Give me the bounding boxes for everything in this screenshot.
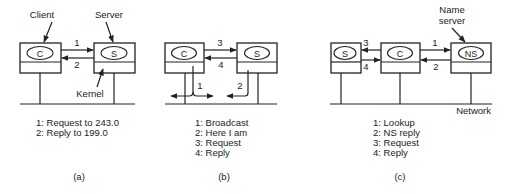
server-process-label: S: [254, 49, 260, 59]
server-pointer-icon: [106, 22, 113, 42]
client-process-label: C: [37, 49, 44, 59]
client-machine: C: [165, 43, 204, 104]
panel-a: C S 1 2 Client Server Kernel 1: Request …: [20, 9, 135, 182]
panel-caption: (c): [394, 171, 405, 182]
arrow-4-label: 4: [218, 59, 223, 70]
legend-line-2: 2: Reply to 199.0: [36, 127, 108, 138]
diagram-canvas: C S 1 2 Client Server Kernel 1: Request …: [0, 0, 512, 194]
client-machine: C: [381, 43, 420, 104]
server-machine: S: [331, 43, 361, 104]
arrow-1-label: 1: [74, 37, 79, 48]
name-server-process-label: NS: [465, 49, 478, 59]
server-process-label: S: [342, 49, 348, 59]
arrow-2-label: 2: [74, 59, 79, 70]
legend-line-4: 4: Reply: [373, 147, 408, 158]
broadcast-right-arrow-icon: [193, 92, 213, 96]
panel-caption: (a): [73, 171, 85, 182]
server-process-label: S: [111, 49, 117, 59]
panel-c: S C NS 1 2 3 4 Name server: [330, 4, 492, 182]
name-server-annotation-line-1: Name: [439, 4, 464, 15]
server-annotation: Server: [95, 9, 123, 20]
arrow-2-label: 2: [433, 61, 438, 72]
arrow-1-label: 1: [432, 37, 437, 48]
client-pointer-icon: [44, 22, 52, 42]
arrow-2-label: 2: [237, 80, 242, 91]
panel-caption: (b): [218, 171, 230, 182]
arrow-3-label: 3: [363, 37, 368, 48]
arrow-3-label: 3: [217, 37, 222, 48]
name-server-pointer-icon: [452, 28, 465, 42]
server-machine: S: [237, 43, 277, 104]
panel-b: C S 3 4 1 2 1: Broadcast 2: Here I am 3:…: [165, 37, 277, 182]
client-process-label: C: [397, 49, 404, 59]
name-server-annotation-line-2: server: [439, 15, 465, 26]
client-machine: C: [20, 43, 61, 104]
name-server-machine: NS: [451, 43, 491, 104]
legend-line-4: 4: Reply: [195, 147, 230, 158]
client-process-label: C: [181, 49, 188, 59]
client-annotation: Client: [30, 9, 55, 20]
network-annotation: Network: [456, 105, 491, 116]
kernel-annotation: Kernel: [76, 88, 103, 99]
arrow-1-label: 1: [197, 80, 202, 91]
arrow-4-label: 4: [363, 61, 368, 72]
